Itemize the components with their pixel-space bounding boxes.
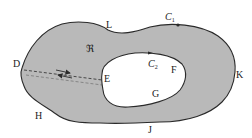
c1-arrow-mark <box>176 23 179 26</box>
region-label: ℜ <box>86 43 95 54</box>
point-label-l: L <box>106 19 112 30</box>
curve-c2-subscript: 2 <box>155 64 158 70</box>
curve-label-c2: C2 <box>148 58 158 70</box>
curve-c1-subscript: 1 <box>172 17 175 23</box>
point-label-j: J <box>148 124 152 135</box>
point-label-h: H <box>35 110 42 121</box>
point-label-k: K <box>236 69 244 80</box>
point-label-f: F <box>171 64 177 75</box>
region-diagram: ℜ L D E F G H J K C1 C2 <box>0 0 252 138</box>
point-label-g: G <box>152 88 159 99</box>
region-r <box>21 22 235 123</box>
curve-label-c1: C1 <box>165 11 175 23</box>
point-label-d: D <box>13 58 20 69</box>
point-label-e: E <box>104 73 110 84</box>
